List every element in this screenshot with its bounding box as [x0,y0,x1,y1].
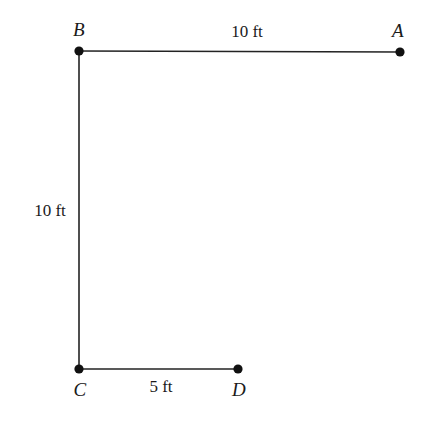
edges-group [79,51,400,369]
vertex-dot-a [395,47,404,56]
segment-ba [79,51,400,52]
vertex-label-c: C [74,380,87,399]
vertex-dot-d [233,364,242,373]
vertex-label-b: B [73,20,85,39]
vertex-label-d: D [232,380,246,399]
vertex-label-a: A [392,21,404,40]
edge-length-label-bc: 10 ft [34,202,66,219]
vertex-dot-b [74,46,83,55]
geometry-figure: ABCD 10 ft10 ft5 ft [0,0,435,426]
edge-length-label-ba: 10 ft [231,23,263,40]
vertex-dot-c [74,364,83,373]
edge-length-label-cd: 5 ft [149,378,172,395]
vertices-group [74,46,404,373]
